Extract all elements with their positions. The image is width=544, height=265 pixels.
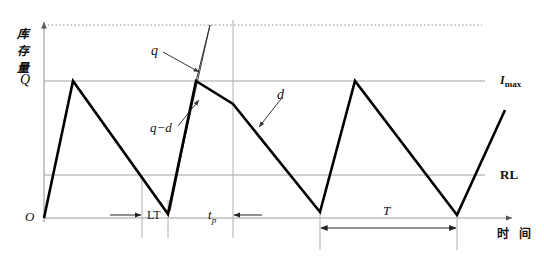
rl-level-label: RL [500,168,518,181]
d-annotation-label: d [277,88,284,102]
origin-label: O [25,210,34,223]
q-thin-return-line [196,25,210,81]
inventory-curve-path [44,81,505,218]
d-leader-arrow [259,99,281,127]
lead-time-label: LT [147,209,161,221]
annotation-arrows [163,52,281,127]
y-axis-char-1: 库 [17,28,29,40]
q-leader-arrow [163,52,199,72]
y-axis-label-q: Q [20,73,30,87]
inventory-curve [44,81,505,218]
reference-levels [44,25,485,175]
tp-subscript: p [212,215,217,225]
q-minus-d-annotation-label: q−d [150,121,172,134]
vertical-guides [142,20,457,250]
y-axis-label-chinese: 库 存 量 [17,28,29,74]
x-axis-label-time: 时 间 [497,228,534,240]
dimension-arrows [110,215,456,228]
imax-subscript: max [505,79,522,89]
axis-group [44,22,512,222]
imax-level-label: Imax [500,74,521,89]
cycle-time-label: T [383,204,390,217]
inventory-diagram-figure: 库 存 量 Q O q q−d d LT tp T Imax RL 时 间 [0,0,544,265]
production-time-label: tp [208,208,216,225]
inventory-chart-svg [0,0,544,265]
y-axis-char-2: 存 [17,45,29,57]
q-annotation-label: q [151,44,158,58]
